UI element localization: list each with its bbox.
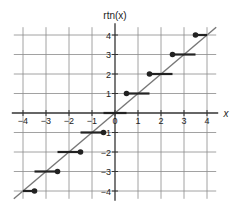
closed-dot-icon bbox=[147, 71, 153, 77]
plot-area: −4−3−2−101234−4−3−2−11234 rtn(x) x bbox=[0, 0, 239, 214]
x-axis-title: x bbox=[223, 108, 230, 119]
closed-dot-icon bbox=[55, 169, 61, 175]
x-tick-label: 2 bbox=[158, 116, 163, 126]
rtn-function-graph: −4−3−2−101234−4−3−2−11234 rtn(x) x bbox=[0, 0, 239, 214]
x-tick-label: −2 bbox=[64, 116, 74, 126]
closed-dot-icon bbox=[193, 32, 199, 38]
closed-dot-icon bbox=[78, 149, 84, 155]
y-tick-label: 1 bbox=[106, 89, 111, 99]
y-tick-label: 4 bbox=[106, 31, 111, 41]
x-tick-label: 0 bbox=[112, 116, 117, 126]
y-tick-label: −2 bbox=[101, 148, 111, 158]
x-tick-label: 3 bbox=[181, 116, 186, 126]
x-tick-label: −1 bbox=[87, 116, 97, 126]
closed-dot-icon bbox=[124, 91, 130, 97]
x-tick-label: 4 bbox=[204, 116, 209, 126]
x-tick-label: −3 bbox=[41, 116, 51, 126]
x-tick-label: −4 bbox=[18, 116, 28, 126]
y-tick-label: −4 bbox=[101, 187, 111, 197]
y-tick-label: 3 bbox=[106, 50, 111, 60]
x-tick-label: 1 bbox=[135, 116, 140, 126]
closed-dot-icon bbox=[32, 188, 38, 194]
y-tick-label: −3 bbox=[101, 167, 111, 177]
closed-dot-icon bbox=[170, 52, 176, 58]
y-axis-title: rtn(x) bbox=[103, 10, 126, 21]
closed-dot-icon bbox=[101, 130, 107, 136]
y-tick-label: 2 bbox=[106, 70, 111, 80]
